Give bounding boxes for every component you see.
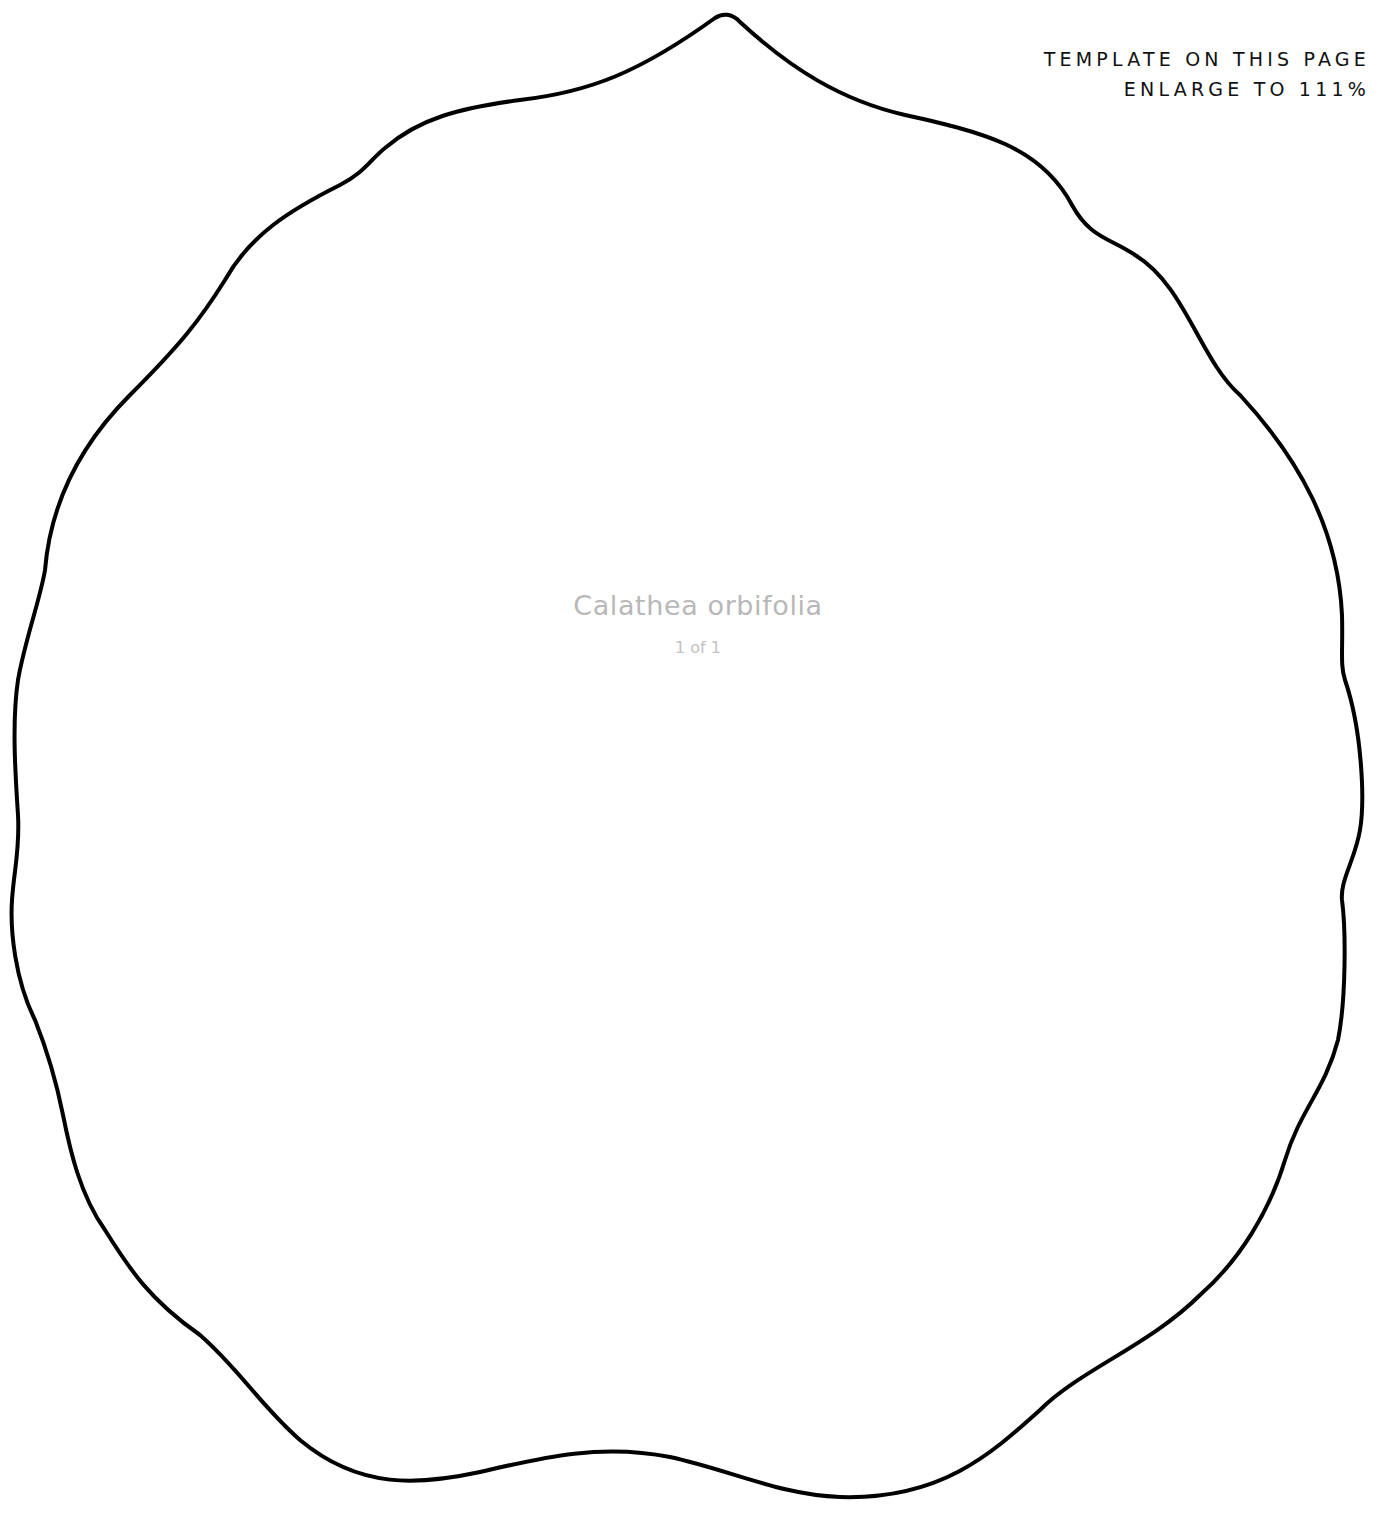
header-note: TEMPLATE ON THIS PAGE ENLARGE TO 111% — [1044, 44, 1370, 104]
plant-name: Calathea orbifolia — [0, 588, 1396, 624]
template-label: Calathea orbifolia 1 of 1 — [0, 588, 1396, 658]
template-notice: TEMPLATE ON THIS PAGE — [1044, 44, 1370, 74]
enlarge-instruction: ENLARGE TO 111% — [1044, 74, 1370, 104]
leaf-outline-path — [12, 15, 1363, 1498]
leaf-outline-template — [0, 0, 1396, 1531]
page-indicator: 1 of 1 — [0, 638, 1396, 658]
